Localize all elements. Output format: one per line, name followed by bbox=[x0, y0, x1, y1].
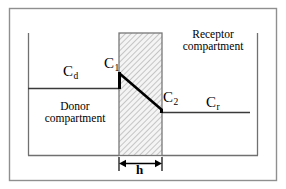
interface-right-concentration-label: C2 bbox=[163, 90, 178, 106]
interface-left-concentration-label: C1 bbox=[104, 56, 119, 72]
receptor-compartment-label: Receptor compartment bbox=[171, 28, 255, 52]
membrane-region bbox=[119, 33, 162, 156]
donor-concentration-label: Cd bbox=[63, 64, 78, 80]
receptor-concentration-label: Cr bbox=[206, 95, 219, 111]
donor-compartment-label: Donor compartment bbox=[33, 100, 117, 124]
membrane-thickness-label: h bbox=[136, 163, 143, 177]
donor-compartment-line1: Donor bbox=[33, 100, 117, 112]
receptor-compartment-line2: compartment bbox=[171, 40, 255, 52]
donor-compartment-line2: compartment bbox=[33, 112, 117, 124]
receptor-compartment-line1: Receptor bbox=[171, 28, 255, 40]
diagram-canvas: Cd C1 C2 Cr Receptor compartment Donor c… bbox=[0, 0, 286, 189]
